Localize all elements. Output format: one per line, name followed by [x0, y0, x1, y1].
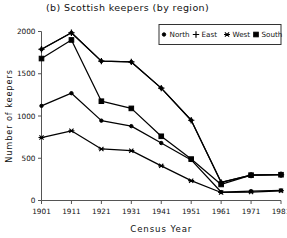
- marker-plus: [38, 46, 44, 52]
- y-tick-label: 500: [22, 154, 36, 163]
- marker-dot: [189, 158, 192, 161]
- series-east: [38, 30, 284, 186]
- marker-dot: [279, 189, 282, 192]
- y-axis-title: Number of keepers: [4, 69, 14, 163]
- marker-square: [249, 173, 254, 178]
- marker-dot: [160, 141, 163, 144]
- marker-square: [129, 106, 134, 111]
- marker-square: [254, 32, 259, 37]
- marker-asterisk: [128, 149, 134, 153]
- chart-plot-area: 0500100015002000190119111921193119411951…: [0, 0, 287, 238]
- x-axis-title: Census Year: [130, 224, 192, 234]
- series-north-actual: [40, 91, 283, 193]
- x-tick-label: 1961: [212, 207, 231, 216]
- legend-label: East: [202, 30, 218, 39]
- x-tick-label: 1911: [62, 207, 81, 216]
- series-group: [38, 30, 284, 195]
- marker-dot: [219, 190, 222, 193]
- x-tick-label: 1921: [92, 207, 111, 216]
- marker-dot: [130, 124, 133, 127]
- marker-square: [39, 56, 44, 61]
- y-tick-label: 2000: [17, 27, 36, 36]
- marker-dot: [100, 119, 103, 122]
- marker-square: [99, 99, 104, 104]
- x-tick-label: 1951: [182, 207, 201, 216]
- y-tick-label: 1000: [17, 112, 36, 121]
- axes-group: 0500100015002000190119111921193119411951…: [17, 27, 287, 215]
- marker-asterisk: [188, 179, 194, 183]
- marker-square: [279, 172, 284, 177]
- marker-dot: [162, 33, 165, 36]
- series-north: [40, 31, 283, 184]
- marker-dot: [70, 91, 73, 94]
- legend-label: West: [233, 30, 251, 39]
- x-tick-label: 1971: [242, 207, 261, 216]
- x-tick-label: 1931: [122, 207, 141, 216]
- x-tick-label: 1901: [32, 207, 51, 216]
- marker-square: [159, 134, 164, 139]
- x-tick-label: 1941: [152, 207, 171, 216]
- marker-dot: [249, 190, 252, 193]
- marker-dot: [40, 104, 43, 107]
- chart-container: (b) Scottish keepers (by region) 0500100…: [0, 0, 287, 238]
- x-tick-label: 1981: [272, 207, 287, 216]
- legend-group: NorthEastWestSouth: [159, 25, 282, 45]
- marker-square: [69, 38, 74, 43]
- marker-asterisk: [68, 129, 74, 133]
- y-tick-label: 0: [31, 196, 36, 205]
- legend-label: South: [262, 30, 283, 39]
- legend-label: North: [170, 30, 190, 39]
- marker-asterisk: [158, 164, 164, 168]
- marker-asterisk: [98, 147, 104, 151]
- series-south: [39, 38, 283, 187]
- y-tick-label: 1500: [17, 69, 36, 78]
- marker-square: [219, 182, 224, 187]
